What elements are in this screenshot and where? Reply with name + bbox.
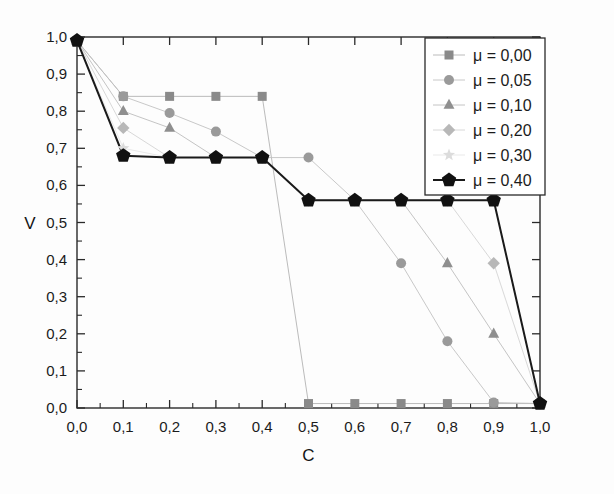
x-axis-title: C <box>302 446 314 465</box>
data-point-pentagon <box>70 33 84 47</box>
chart-figure: 0,00,10,20,30,40,50,60,70,80,91,0 0,00,1… <box>0 0 614 494</box>
data-point-square <box>165 92 174 101</box>
x-tick-label: 0,4 <box>252 418 273 435</box>
y-tick-label: 0,6 <box>46 176 67 193</box>
x-tick-label: 0,5 <box>298 418 319 435</box>
data-point-triangle <box>118 105 129 115</box>
y-tick-label: 0,0 <box>46 399 67 416</box>
x-tick-label: 0,7 <box>391 418 412 435</box>
legend-label: μ = 0,10 <box>473 97 532 114</box>
data-point-square <box>258 92 267 101</box>
data-point-pentagon <box>116 148 130 162</box>
x-tick-label: 0,9 <box>483 418 504 435</box>
x-tick-label: 0,8 <box>437 418 458 435</box>
y-axis-tick-labels: 0,00,10,20,30,40,50,60,70,80,91,0 <box>46 28 67 416</box>
y-tick-label: 0,2 <box>46 325 67 342</box>
data-point-pentagon <box>209 150 223 164</box>
y-axis-title: V <box>24 214 36 233</box>
x-tick-label: 0,0 <box>67 418 88 435</box>
data-point-circle <box>304 153 314 163</box>
legend: μ = 0,00μ = 0,05μ = 0,10μ = 0,20μ = 0,30… <box>425 38 545 195</box>
data-point-square <box>211 92 220 101</box>
y-tick-label: 0,7 <box>46 139 67 156</box>
y-tick-label: 0,1 <box>46 362 67 379</box>
x-tick-label: 0,1 <box>113 418 134 435</box>
data-point-square <box>304 399 313 408</box>
x-tick-label: 0,3 <box>205 418 226 435</box>
data-point-circle <box>396 258 406 268</box>
y-tick-label: 0,3 <box>46 288 67 305</box>
x-tick-label: 0,2 <box>159 418 180 435</box>
data-point-square <box>397 399 406 408</box>
data-point-diamond <box>488 257 500 269</box>
legend-label: μ = 0,20 <box>473 122 532 139</box>
x-tick-label: 1,0 <box>530 418 551 435</box>
data-point-pentagon <box>162 150 176 164</box>
data-point-pentagon <box>394 193 408 207</box>
x-tick-label: 0,6 <box>344 418 365 435</box>
data-point-square <box>443 399 452 408</box>
data-point-square <box>350 399 359 408</box>
data-point-square <box>445 51 454 60</box>
y-tick-label: 0,8 <box>46 102 67 119</box>
data-point-pentagon <box>533 396 547 410</box>
y-tick-label: 1,0 <box>46 28 67 45</box>
y-tick-label: 0,5 <box>46 214 67 231</box>
data-point-circle <box>211 127 221 137</box>
y-tick-label: 0,9 <box>46 65 67 82</box>
data-point-pentagon <box>255 150 269 164</box>
legend-label: μ = 0,40 <box>473 172 532 189</box>
data-point-circle <box>444 75 454 85</box>
chart-svg: 0,00,10,20,30,40,50,60,70,80,91,0 0,00,1… <box>0 0 614 494</box>
data-point-diamond <box>117 122 129 134</box>
data-point-circle <box>165 108 175 118</box>
y-tick-label: 0,4 <box>46 251 67 268</box>
x-axis-tick-labels: 0,00,10,20,30,40,50,60,70,80,91,0 <box>67 418 551 435</box>
legend-label: μ = 0,05 <box>473 72 532 89</box>
data-point-pentagon <box>348 193 362 207</box>
legend-label: μ = 0,30 <box>473 147 532 164</box>
data-point-triangle <box>488 328 499 338</box>
data-point-circle <box>489 397 499 407</box>
legend-label: μ = 0,00 <box>473 47 532 64</box>
data-point-circle <box>118 91 128 101</box>
data-point-circle <box>442 336 452 346</box>
